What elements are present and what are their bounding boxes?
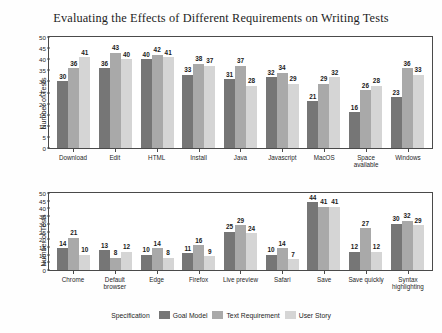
bar-column: 7 — [288, 193, 299, 270]
x-tick-mark — [199, 149, 200, 152]
bar-group: 252924 — [224, 193, 257, 270]
bar-column: 8 — [163, 193, 174, 270]
bar — [141, 255, 152, 270]
bar-group: 212932 — [307, 37, 340, 148]
bar — [402, 68, 413, 148]
bar-column: 32 — [329, 37, 340, 148]
x-tick-mark — [115, 149, 116, 152]
bar-group: 333837 — [182, 37, 215, 148]
bar — [193, 245, 204, 270]
y-tick-label: 5 — [43, 133, 46, 140]
bar-value-label: 41 — [165, 50, 172, 56]
bar-value-label: 26 — [362, 83, 369, 89]
bar — [371, 86, 382, 148]
bar-value-label: 16 — [351, 105, 358, 111]
bar-value-label: 10 — [268, 247, 275, 253]
y-tick-label: 20 — [39, 236, 46, 243]
bar-groups-bottom: 1421101381210148111692529241014744414112… — [49, 193, 432, 270]
bar-group: 303641 — [57, 37, 90, 148]
x-tick-mark — [157, 271, 158, 274]
bar — [57, 81, 68, 148]
x-tick-mark — [240, 149, 241, 152]
bar-column: 36 — [402, 37, 413, 148]
bar-value-label: 11 — [184, 246, 191, 252]
bar-value-label: 14 — [154, 241, 161, 247]
x-tick-text: Edit — [109, 154, 120, 161]
x-tick-text: Windows — [395, 154, 421, 161]
bar — [288, 84, 299, 148]
chart-panel-bottom: Number of Tests 05101520253035404550 142… — [0, 186, 442, 298]
bar-value-label: 37 — [206, 58, 213, 64]
bar-value-label: 29 — [320, 76, 327, 82]
legend-item[interactable]: Goal Model — [159, 311, 208, 319]
bar-column: 30 — [391, 193, 402, 270]
legend-item[interactable]: User Story — [285, 311, 331, 319]
x-tick-text: Safari — [274, 276, 290, 283]
bar-value-label: 30 — [393, 216, 400, 222]
x-tick-label: Javascript — [264, 149, 300, 168]
y-tick-label: 35 — [39, 67, 46, 74]
bar-value-label: 8 — [114, 250, 118, 256]
bar-column: 10 — [266, 193, 277, 270]
bar-value-label: 41 — [81, 50, 88, 56]
bar-group: 10148 — [141, 193, 174, 270]
bar — [235, 66, 246, 148]
bar — [318, 207, 329, 270]
bar-value-label: 14 — [279, 241, 286, 247]
bar — [68, 68, 79, 148]
bar-column: 12 — [371, 193, 382, 270]
x-tick-mark — [366, 149, 367, 152]
bar-group: 364340 — [99, 37, 132, 148]
bar-column: 29 — [288, 37, 299, 148]
bar — [391, 224, 402, 270]
bar-column: 43 — [110, 37, 121, 148]
bar-column: 9 — [204, 193, 215, 270]
y-tick-label: 20 — [39, 100, 46, 107]
x-tick-text: Live preview — [223, 276, 258, 283]
bar-column: 14 — [277, 193, 288, 270]
y-tick-label: 0 — [43, 267, 46, 274]
bar — [318, 84, 329, 148]
bar-value-label: 36 — [70, 61, 77, 67]
legend-label: Text Requirement — [226, 312, 279, 319]
bar — [204, 66, 215, 148]
bar-column: 41 — [163, 37, 174, 148]
bar — [371, 252, 382, 270]
legend-item[interactable]: Text Requirement — [212, 311, 279, 319]
bar-column: 8 — [110, 193, 121, 270]
plot-area-bottom: 05101520253035404550 1421101381210148111… — [48, 192, 433, 271]
bar-value-label: 41 — [331, 199, 338, 205]
bar-value-label: 7 — [291, 252, 295, 258]
bar-value-label: 27 — [362, 221, 369, 227]
x-tick-label: Java — [222, 149, 258, 168]
bar-value-label: 10 — [81, 247, 88, 253]
bar — [224, 232, 235, 271]
legend-label: Goal Model — [173, 312, 208, 319]
x-tick-mark — [157, 149, 158, 152]
bar-value-label: 34 — [279, 65, 286, 71]
bar-column: 26 — [360, 37, 371, 148]
bar-column: 24 — [246, 193, 257, 270]
bar-group: 323429 — [266, 37, 299, 148]
bar-value-label: 9 — [208, 249, 212, 255]
y-tick-label: 50 — [39, 190, 46, 197]
bar-column: 40 — [141, 37, 152, 148]
x-tick-text: Javascript — [268, 154, 296, 161]
bar-value-label: 32 — [331, 70, 338, 76]
chart-legend: Specification Goal ModelText Requirement… — [0, 311, 442, 319]
x-tick-text: Save quickly — [348, 276, 383, 283]
x-tick-text: Syntax highlighting — [392, 276, 424, 290]
bar-column: 36 — [99, 37, 110, 148]
bar-value-label: 24 — [248, 226, 255, 232]
bar-column: 38 — [193, 37, 204, 148]
bar — [246, 233, 257, 270]
bar-column: 27 — [360, 193, 371, 270]
bar-column: 10 — [79, 193, 90, 270]
bar-value-label: 29 — [415, 218, 422, 224]
bar — [329, 207, 340, 270]
x-axis-labels-bottom: ChromeDefault browserEdgeFirefoxLive pre… — [48, 271, 433, 290]
bar-column: 21 — [68, 193, 79, 270]
x-tick-text: Chrome — [62, 276, 84, 283]
y-tick-label: 0 — [43, 145, 46, 152]
x-tick-label: Syntax highlighting — [390, 271, 426, 290]
